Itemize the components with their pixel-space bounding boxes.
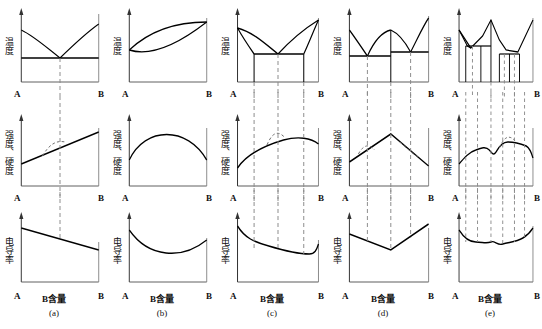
panel-e-strength-cell: 强度、硬度 A B: [438, 114, 542, 190]
panel-e-strength-axis-end: B: [534, 193, 540, 203]
panel-e-conductivity-plot: [454, 212, 538, 288]
panel-a-label: (a): [0, 308, 108, 318]
panel-c-temperature-cell: 温度 A: [216, 6, 328, 86]
panel-a-strength-axis-start: A: [14, 193, 21, 203]
panel-e-temperature-axis-end: B: [534, 89, 540, 99]
panel-e-conductivity-cell: 电导率 A B: [438, 212, 542, 288]
panel-b-temperature-axis-start: A: [122, 89, 129, 99]
panel-c-conductivity-cell: 电导率 A B: [216, 212, 328, 288]
panel-a: 温度 A B 强度、硬度: [0, 0, 108, 329]
panel-d-temperature-plot: [344, 6, 434, 86]
panel-b: 温度 A B 强度、硬度: [108, 0, 216, 329]
panel-d-strength-cell: 强度、硬度 A B: [328, 114, 438, 190]
panel-c-strength-ylabel: 强度、硬度: [218, 114, 232, 190]
panel-d-temperature-cell: 温度 A: [328, 6, 438, 86]
panel-b-xlabel: B含量: [108, 292, 216, 305]
panel-a-conductivity-plot: [16, 212, 104, 288]
panel-d-label: (d): [328, 308, 438, 318]
panel-c: 温度 A: [216, 0, 328, 329]
panel-e-temperature-plot: [454, 6, 538, 86]
panel-b-temperature-axis-end: B: [206, 89, 212, 99]
panel-d-strength-ylabel: 强度、硬度: [330, 114, 344, 190]
panel-a-xlabel: B含量: [0, 292, 108, 305]
panel-e-strength-ylabel: 强度、硬度: [440, 114, 454, 190]
panel-e-temperature-axis-start: A: [452, 89, 459, 99]
panel-c-strength-cell: 强度、硬度 A B: [216, 114, 328, 190]
panel-e: 温度: [438, 0, 542, 329]
panel-d-temperature-axis-start: A: [342, 89, 349, 99]
panel-c-strength-plot: [232, 114, 324, 190]
panel-a-strength-axis-end: B: [98, 193, 104, 203]
panel-c-temperature-axis-end: B: [318, 89, 324, 99]
panel-e-xlabel: B含量: [438, 292, 542, 305]
panel-b-conductivity-ylabel: 电导率: [110, 212, 124, 288]
figure-root: 温度 A B 强度、硬度: [0, 0, 542, 329]
panel-c-label: (c): [216, 308, 328, 318]
panel-a-temperature-axis-start: A: [14, 89, 21, 99]
panel-b-strength-axis-end: B: [206, 193, 212, 203]
panel-b-conductivity-cell: 电导率 A B: [108, 212, 216, 288]
panel-d-temperature-ylabel: 温度: [330, 6, 344, 86]
panel-b-conductivity-plot: [124, 212, 212, 288]
panel-a-conductivity-cell: 电导率 A B: [0, 212, 108, 288]
panel-b-temperature-ylabel: 温度: [110, 6, 124, 86]
panel-d-xlabel: B含量: [328, 292, 438, 305]
panel-b-temperature-cell: 温度 A B: [108, 6, 216, 86]
panel-c-temperature-ylabel: 温度: [218, 6, 232, 86]
panel-c-conductivity-ylabel: 电导率: [218, 212, 232, 288]
panel-a-strength-ylabel: 强度、硬度: [2, 114, 16, 190]
panel-a-temperature-cell: 温度 A B: [0, 6, 108, 86]
panel-a-temperature-plot: [16, 6, 104, 86]
panel-e-temperature-ylabel: 温度: [440, 6, 454, 86]
panel-e-temperature-cell: 温度: [438, 6, 542, 86]
panel-c-strength-axis-start: A: [230, 193, 237, 203]
panel-b-strength-axis-start: A: [122, 193, 129, 203]
panel-b-strength-cell: 强度、硬度 A B: [108, 114, 216, 190]
panel-b-label: (b): [108, 308, 216, 318]
panel-d-strength-axis-end: B: [428, 193, 434, 203]
panel-b-strength-ylabel: 强度、硬度: [110, 114, 124, 190]
panel-c-temperature-axis-start: A: [230, 89, 237, 99]
panel-d-conductivity-cell: 电导率 A B: [328, 212, 438, 288]
panel-e-strength-plot: [454, 114, 538, 190]
panel-a-conductivity-ylabel: 电导率: [2, 212, 16, 288]
panel-c-conductivity-plot: [232, 212, 324, 288]
panel-d-strength-plot: [344, 114, 434, 190]
panel-e-label: (e): [438, 308, 542, 318]
panel-c-strength-axis-end: B: [318, 193, 324, 203]
panel-a-temperature-ylabel: 温度: [2, 6, 16, 86]
panel-d-conductivity-ylabel: 电导率: [330, 212, 344, 288]
panel-d-strength-axis-start: A: [342, 193, 349, 203]
panel-c-temperature-plot: [232, 6, 324, 86]
panel-a-strength-plot: [16, 114, 104, 190]
panel-a-temperature-axis-end: B: [98, 89, 104, 99]
panel-d-temperature-axis-end: B: [428, 89, 434, 99]
panel-d: 温度 A: [328, 0, 438, 329]
panel-e-strength-axis-start: A: [452, 193, 459, 203]
panel-e-conductivity-ylabel: 电导率: [440, 212, 454, 288]
panel-c-xlabel: B含量: [216, 292, 328, 305]
panel-d-conductivity-plot: [344, 212, 434, 288]
panel-a-strength-cell: 强度、硬度 A B: [0, 114, 108, 190]
panel-b-temperature-plot: [124, 6, 212, 86]
panel-b-strength-plot: [124, 114, 212, 190]
